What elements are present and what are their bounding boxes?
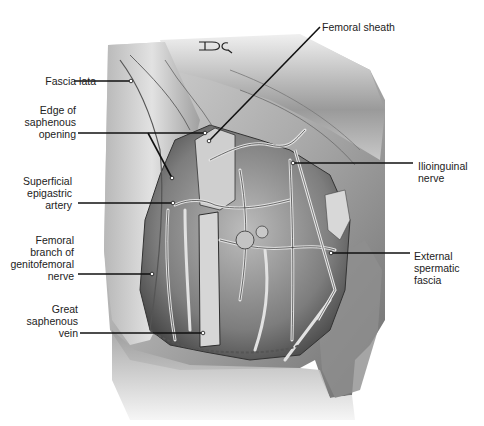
leader-endpoint-edge-saphenous-opening-2 [170,176,174,180]
label-femoral-sheath: Femoral sheath [322,21,422,33]
label-edge-saphenous-opening: Edge of saphenous opening [20,104,76,140]
leader-endpoint-femoral-sheath [207,139,211,143]
label-great-saphenous-vein: Great saphenous vein [14,303,78,339]
leader-endpoint-edge-saphenous-opening-1 [203,131,207,135]
label-external-spermatic-fascia: External spermatic fascia [414,250,478,286]
label-fascia-lata: Fascia lata [24,75,96,87]
leader-endpoint-superficial-epigastric-artery [171,201,175,205]
illustration [0,0,484,426]
label-ilioinguinal-nerve: Ilioinguinal nerve [418,160,482,184]
leader-endpoint-great-saphenous-vein [201,331,205,335]
label-superficial-epigastric-artery: Superficial epigastric artery [14,175,72,211]
leader-endpoint-external-spermatic-fascia [329,251,333,255]
anatomy-figure: Fascia lataEdge of saphenous openingSupe… [0,0,484,426]
leader-endpoint-ilioinguinal-nerve [291,161,295,165]
label-femoral-branch-genitofemoral-nerve: Femoral branch of genitofemoral nerve [4,234,74,282]
leader-endpoint-fascia-lata [129,79,133,83]
leader-endpoint-femoral-branch-genitofemoral-nerve [150,272,154,276]
